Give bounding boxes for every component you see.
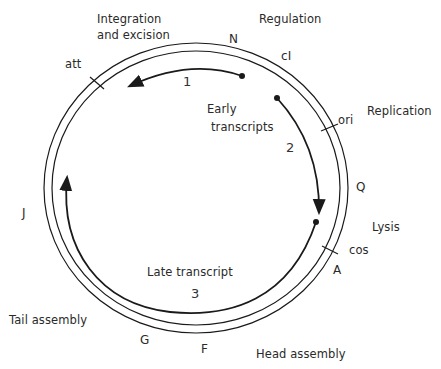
gene-A-label: A xyxy=(333,263,341,277)
lambda-genome-diagram: Integration and excision Regulation Repl… xyxy=(0,0,441,369)
early-transcripts-label-line2: transcripts xyxy=(211,120,274,134)
transcript-3-number: 3 xyxy=(191,287,199,301)
att-site-tick xyxy=(90,77,104,89)
integration-label: Integration xyxy=(97,12,161,26)
inner-strand xyxy=(52,51,340,325)
gene-J-label: J xyxy=(22,206,26,220)
replication-label: Replication xyxy=(367,104,432,118)
gene-Q-label: Q xyxy=(356,180,366,194)
tail-assembly-label: Tail assembly xyxy=(9,313,87,327)
att-site-label: att xyxy=(65,57,81,71)
regulation-label: Regulation xyxy=(259,12,321,26)
gene-N-label: N xyxy=(229,32,238,46)
excision-label: and excision xyxy=(97,28,170,42)
gene-cI-label: cI xyxy=(281,49,291,63)
head-assembly-label: Head assembly xyxy=(256,347,346,361)
lysis-label: Lysis xyxy=(372,220,400,234)
cos-site-label: cos xyxy=(349,243,369,257)
gene-G-label: G xyxy=(140,333,149,347)
ori-site-label: ori xyxy=(338,113,353,127)
transcript-1-number: 1 xyxy=(183,75,191,89)
transcript-1-start-dot xyxy=(239,73,245,79)
transcript-2-start-dot xyxy=(274,95,280,101)
late-transcript-label: Late transcript xyxy=(147,265,233,279)
transcript-2-arrow xyxy=(277,98,319,212)
early-transcripts-label-line1: Early xyxy=(207,102,237,116)
transcript-3-start-dot xyxy=(313,219,319,225)
transcript-2-number: 2 xyxy=(286,141,294,155)
gene-F-label: F xyxy=(201,342,208,356)
